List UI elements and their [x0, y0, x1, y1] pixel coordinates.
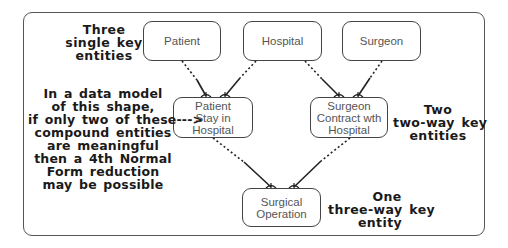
- rel-patient-to-stay: [182, 61, 211, 97]
- rel-stay-to-operation: [213, 138, 276, 188]
- note-line: entities: [62, 49, 146, 62]
- note-three-way-key-entity: One three-way key entity: [328, 190, 424, 229]
- entity-surgeon-contract-with-hospital[interactable]: Surgeon Contract wth Hospital: [310, 97, 388, 138]
- entity-label-line: Operation: [256, 208, 307, 220]
- note-single-key-entities: Three single key entities: [62, 23, 146, 62]
- entity-label: Patient: [164, 35, 200, 47]
- rel-contract-to-operation: [289, 138, 350, 188]
- er-diagram: Patient Hospital Surgeon Patient Stay in…: [0, 0, 508, 248]
- rel-hospital-to-stay: [220, 61, 256, 97]
- entity-label: Surgeon: [360, 35, 403, 47]
- note-line: entity: [328, 216, 424, 229]
- entity-label-line: Contract wth: [317, 112, 382, 124]
- note-two-way-key-entities: Two two-way key entities: [393, 103, 483, 142]
- entity-surgeon[interactable]: Surgeon: [342, 21, 421, 61]
- entity-label-line: Patient: [195, 100, 231, 112]
- entity-surgical-operation[interactable]: Surgical Operation: [242, 188, 321, 227]
- rel-hospital-to-contract: [305, 61, 344, 97]
- entity-label-line: Surgical: [261, 196, 303, 208]
- rel-surgeon-to-contract: [353, 61, 382, 97]
- entity-label: Hospital: [262, 35, 304, 47]
- note-line: entities: [393, 129, 483, 142]
- entity-label-line: Surgeon: [327, 100, 370, 112]
- entity-patient[interactable]: Patient: [143, 21, 221, 61]
- entity-label-line: Hospital: [328, 124, 370, 136]
- entity-hospital[interactable]: Hospital: [243, 21, 322, 61]
- note-line: may be possible: [28, 178, 178, 191]
- note-fourth-normal-form: In a data model of this shape, if only t…: [28, 87, 178, 191]
